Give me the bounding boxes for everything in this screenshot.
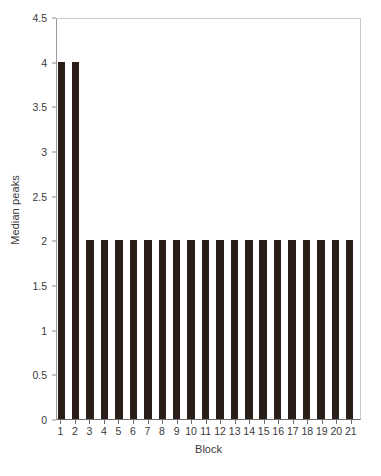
bar-slot xyxy=(158,19,172,419)
bar-series xyxy=(57,19,360,419)
x-axis-tick-label: 1 xyxy=(57,425,63,437)
bar xyxy=(72,62,79,419)
x-axis-tick-mark xyxy=(322,420,323,424)
bar-slot xyxy=(345,19,359,419)
x-axis-tick-label: 16 xyxy=(272,425,284,437)
x-axis-tick-label: 15 xyxy=(258,425,270,437)
bar-slot xyxy=(273,19,287,419)
bar-slot xyxy=(230,19,244,419)
y-axis-tick-label: 1 xyxy=(41,325,47,337)
bar-slot xyxy=(331,19,345,419)
x-axis-tick-label: 3 xyxy=(86,425,92,437)
x-axis-tick-label: 20 xyxy=(330,425,342,437)
x-axis-tick-label: 4 xyxy=(101,425,107,437)
x-axis-tick-mark xyxy=(293,420,294,424)
bar xyxy=(317,240,324,419)
bar xyxy=(159,240,166,419)
bar-chart-figure: Median peaks 00.511.522.533.544.5 123456… xyxy=(0,0,381,476)
x-axis-tick-mark xyxy=(162,420,163,424)
bar-slot xyxy=(244,19,258,419)
bar xyxy=(216,240,223,419)
bar xyxy=(259,240,266,419)
bar xyxy=(231,240,238,419)
x-axis-tick-mark xyxy=(177,420,178,424)
y-axis-title-text: Median peaks xyxy=(9,175,21,245)
bar-slot xyxy=(259,19,273,419)
bar-slot xyxy=(201,19,215,419)
bar-slot xyxy=(172,19,186,419)
bar-slot xyxy=(187,19,201,419)
bar-slot xyxy=(115,19,129,419)
x-axis-tick-mark xyxy=(118,420,119,424)
x-axis-tick-mark xyxy=(148,420,149,424)
bar xyxy=(332,240,339,419)
x-axis-tick-mark xyxy=(307,420,308,424)
bar xyxy=(115,240,122,419)
x-axis-tick-label: 6 xyxy=(130,425,136,437)
x-axis-tick-label: 11 xyxy=(200,425,211,437)
y-axis-tick-label: 2.5 xyxy=(32,191,47,203)
x-axis-tick-mark xyxy=(60,420,61,424)
x-axis-tick-label: 21 xyxy=(345,425,357,437)
y-axis-tick-label: 2 xyxy=(41,235,47,247)
bar xyxy=(187,240,194,419)
bar-slot xyxy=(86,19,100,419)
bar xyxy=(303,240,310,419)
y-axis-tick-label: 3 xyxy=(41,146,47,158)
bar xyxy=(144,240,151,419)
bar xyxy=(288,240,295,419)
y-axis-tick-label: 3.5 xyxy=(32,101,47,113)
x-axis-tick-label: 17 xyxy=(287,425,299,437)
x-axis-tick-mark xyxy=(351,420,352,424)
bar xyxy=(130,240,137,419)
bar-slot xyxy=(100,19,114,419)
bar xyxy=(245,240,252,419)
x-axis-tick-label: 18 xyxy=(301,425,313,437)
x-axis-tick-labels: 123456789101112131415161718192021 xyxy=(56,425,361,441)
y-axis-tick-label: 1.5 xyxy=(32,280,47,292)
y-axis-tick-label: 0.5 xyxy=(32,369,47,381)
bar-slot xyxy=(71,19,85,419)
x-axis-tick-label: 19 xyxy=(316,425,328,437)
x-axis-tick-mark xyxy=(206,420,207,424)
x-axis-tick-label: 13 xyxy=(229,425,241,437)
x-axis-tick-mark xyxy=(104,420,105,424)
x-axis-tick-mark xyxy=(235,420,236,424)
bar-slot xyxy=(216,19,230,419)
y-axis-tick-label: 4 xyxy=(41,57,47,69)
x-axis-tick-label: 8 xyxy=(159,425,165,437)
x-axis-tick-mark xyxy=(249,420,250,424)
x-axis-tick-label: 5 xyxy=(116,425,122,437)
x-axis-tick-mark xyxy=(133,420,134,424)
x-axis-tick-label: 2 xyxy=(72,425,78,437)
bar-slot xyxy=(129,19,143,419)
x-axis-tick-mark xyxy=(278,420,279,424)
x-axis-tick-mark xyxy=(336,420,337,424)
y-axis-tick-label: 0 xyxy=(41,414,47,426)
x-axis-tick-mark xyxy=(264,420,265,424)
bar-slot xyxy=(302,19,316,419)
bar-slot xyxy=(288,19,302,419)
bar xyxy=(58,62,65,419)
x-axis-tick-label: 7 xyxy=(145,425,151,437)
x-axis-title: Block xyxy=(56,443,361,455)
x-axis-tick-label: 9 xyxy=(174,425,180,437)
x-axis-tick-mark xyxy=(220,420,221,424)
bar xyxy=(202,240,209,419)
bar xyxy=(173,240,180,419)
bar xyxy=(274,240,281,419)
x-axis-tick-mark xyxy=(89,420,90,424)
x-axis-tick-label: 10 xyxy=(185,425,197,437)
bar xyxy=(101,240,108,419)
plot-area xyxy=(56,18,361,420)
x-axis-tick-label: 12 xyxy=(214,425,226,437)
x-axis-tick-mark xyxy=(191,420,192,424)
y-axis-tick-labels: 00.511.522.533.544.5 xyxy=(26,18,52,420)
bar-slot xyxy=(57,19,71,419)
bar xyxy=(346,240,353,419)
x-axis-tick-mark xyxy=(75,420,76,424)
bar xyxy=(86,240,93,419)
bar-slot xyxy=(144,19,158,419)
x-axis-tick-label: 14 xyxy=(243,425,255,437)
bar-slot xyxy=(317,19,331,419)
